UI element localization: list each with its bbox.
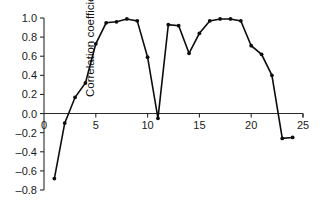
data-point-marker [187,51,191,55]
data-point-marker [260,52,264,56]
data-point-marker [249,44,253,48]
data-point-marker [280,137,284,141]
chart-background [0,0,324,206]
data-point-marker [208,19,212,23]
x-tick-label: 5 [93,119,99,131]
data-point-marker [198,31,202,35]
y-tick-label: 0.6 [22,50,37,62]
y-tick-label: 1.0 [22,12,37,24]
y-tick-label: 0.8 [22,31,37,43]
y-tick-label: –0.8 [16,184,37,196]
chart-container: –0.8–0.6–0.4–0.20.00.20.40.60.81.0 05101… [0,0,324,206]
data-point-marker [84,81,88,85]
x-tick-label: 10 [141,119,153,131]
data-point-marker [156,116,160,120]
correlation-coefficient-line-chart: –0.8–0.6–0.4–0.20.00.20.40.60.81.0 05101… [0,0,324,206]
data-point-marker [146,55,150,59]
y-tick-label: –0.6 [16,165,37,177]
data-point-marker [218,17,222,21]
y-tick-label: 0.0 [22,108,37,120]
data-point-marker [104,21,108,25]
y-tick-label: –0.4 [16,146,37,158]
x-tick-label: 0 [41,119,47,131]
data-point-marker [270,73,274,77]
y-tick-label: –0.2 [16,127,37,139]
y-tick-label: 0.2 [22,88,37,100]
x-tick-label: 20 [245,119,257,131]
data-point-marker [291,136,295,140]
data-point-marker [166,23,170,27]
y-tick-label: 0.4 [22,69,37,81]
data-point-marker [177,24,181,28]
x-tick-label: 25 [297,119,309,131]
data-point-marker [229,17,233,21]
data-point-marker [52,177,56,181]
data-point-marker [135,19,139,23]
data-point-marker [73,95,77,99]
data-point-marker [63,121,67,125]
data-point-marker [239,19,243,23]
data-point-marker [115,20,119,24]
x-tick-label: 15 [193,119,205,131]
data-point-marker [94,42,98,46]
data-point-marker [125,17,129,21]
